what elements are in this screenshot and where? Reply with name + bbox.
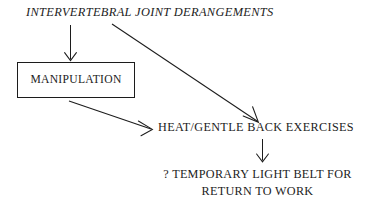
node-temporary-light-belt: ? TEMPORARY LIGHT BELT FOR RETURN TO WOR… — [150, 166, 365, 201]
node-heat-gentle-back-exercises: HEAT/GENTLE BACK EXERCISES — [158, 121, 354, 134]
node-manipulation-box: MANIPULATION — [17, 62, 135, 98]
edge-heat-to-belt — [257, 139, 269, 162]
node-belt-label-line-1: ? TEMPORARY LIGHT BELT FOR — [150, 166, 365, 183]
flow-diagram: INTERVERTEBRAL JOINT DERANGEMENTS MANIPU… — [0, 0, 375, 210]
edge-manipulation-to-heat — [69, 101, 152, 136]
edge-derangements-to-manipulation — [65, 25, 77, 61]
arrowhead-down-icon — [257, 154, 269, 162]
arrowhead-down-icon — [65, 53, 77, 61]
node-manipulation-label: MANIPULATION — [30, 74, 121, 86]
arrowhead-diagonal-icon — [138, 121, 152, 136]
node-intervertebral-joint-derangements: INTERVERTEBRAL JOINT DERANGEMENTS — [26, 6, 274, 19]
node-belt-label-line-2: RETURN TO WORK — [150, 183, 365, 200]
